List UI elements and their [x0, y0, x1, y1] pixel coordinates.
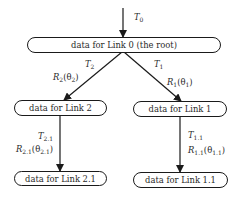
label-t1-1: T1.1	[188, 131, 203, 141]
label-r2-1-theta2-1: R2.1(θ2.1)	[16, 145, 53, 155]
label-t2: T2	[85, 60, 94, 70]
node-label: data for Link 1.1	[145, 175, 216, 185]
node-link-1: data for Link 1	[133, 101, 227, 117]
label-r2-theta2: R2(θ2)	[53, 73, 79, 83]
label-t1: T1	[154, 60, 163, 70]
node-label: data for Link 1	[149, 104, 212, 114]
node-label: data for Link 0 (the root)	[71, 40, 177, 50]
label-r1-theta1: R1(θ1)	[167, 78, 193, 88]
node-label: data for Link 2	[29, 103, 92, 113]
label-t0: T0	[134, 13, 143, 23]
node-link-2: data for Link 2	[14, 100, 107, 116]
node-link-1-1: data for Link 1.1	[133, 172, 228, 188]
node-link-2-1: data for Link 2.1	[14, 171, 107, 186]
node-label: data for Link 2.1	[25, 174, 96, 184]
node-link-0-root: data for Link 0 (the root)	[27, 37, 221, 53]
label-t2-1: T2.1	[38, 132, 53, 142]
link-tree-diagram: data for Link 0 (the root) data for Link…	[0, 0, 243, 201]
label-r1-1-theta1-1: R1.1(θ1.1)	[188, 146, 225, 156]
